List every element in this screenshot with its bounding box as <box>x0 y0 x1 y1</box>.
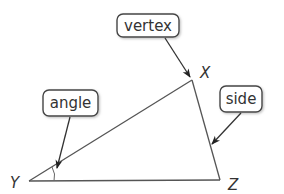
side-xz <box>192 80 220 180</box>
callout-label-vertex: vertex <box>124 17 172 35</box>
vertex-label-z: Z <box>227 176 239 194</box>
vertex-label-x: X <box>199 64 211 82</box>
callout-label-side: side <box>226 90 257 108</box>
angle-arc-y <box>52 167 55 181</box>
callout-side: side <box>212 86 262 144</box>
callout-angle: angle <box>43 90 98 168</box>
side-yz <box>29 180 220 181</box>
vertex-label-y: Y <box>10 174 21 192</box>
arrow-icon <box>165 38 190 77</box>
callout-label-angle: angle <box>50 94 92 112</box>
triangle-diagram: X Y Z vertex angle side <box>0 0 284 194</box>
arrow-icon <box>212 113 241 144</box>
callout-vertex: vertex <box>117 14 190 77</box>
